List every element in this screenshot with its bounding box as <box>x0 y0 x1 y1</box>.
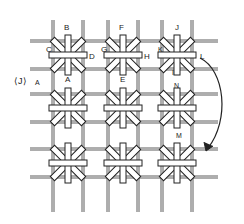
label-a: A <box>65 76 70 84</box>
label-e: E <box>120 76 125 84</box>
stitch-group <box>49 35 196 183</box>
label-n: N <box>174 82 179 90</box>
label-b: B <box>64 24 69 32</box>
label-f: F <box>119 24 124 32</box>
label-h: H <box>144 53 150 61</box>
label-l: L <box>200 53 204 61</box>
label-j: J <box>175 24 179 32</box>
label-d: D <box>89 53 95 61</box>
label-g: G <box>101 46 107 54</box>
left-marker: ⟨J⟩ <box>14 77 27 85</box>
label-a-left: A <box>35 79 40 87</box>
label-m: M <box>176 132 182 140</box>
stitch-diagram <box>0 0 244 224</box>
curved-arrow-icon <box>200 58 222 148</box>
label-c: C <box>46 46 52 54</box>
label-i: I <box>172 69 174 77</box>
label-k: K <box>158 46 163 54</box>
